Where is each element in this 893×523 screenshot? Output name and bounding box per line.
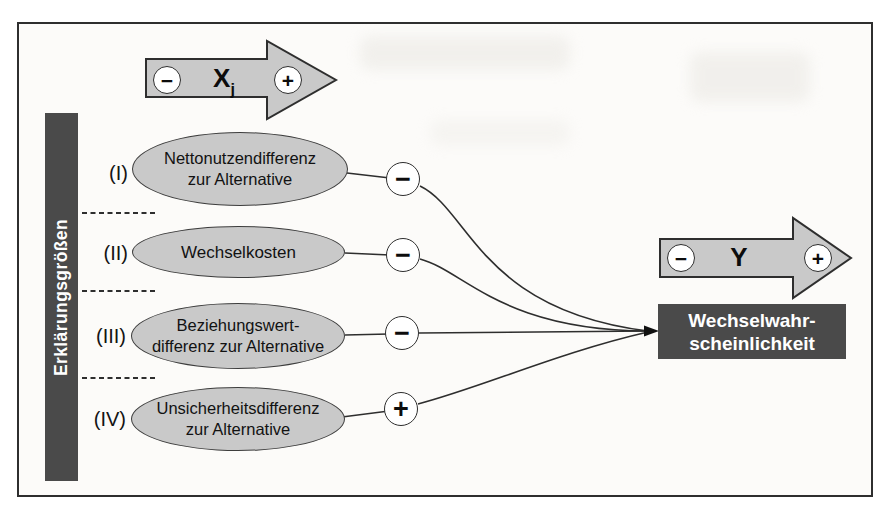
row1-sign-badge: − [386,162,420,196]
ellipse-unsicherheitsdifferenz: Unsicherheitsdifferenz zur Alternative [131,387,345,451]
minus-sign-icon: − [161,70,173,91]
curve-row4-to-outcome [418,332,648,404]
plus-sign-icon: + [393,396,409,423]
minus-sign-icon: − [395,242,411,269]
minus-sign-icon: − [675,248,687,269]
x-axis-label-subscript: j [230,81,234,98]
connector-ellipse1-to-sign [347,173,390,178]
ellipse-wechselkosten: Wechselkosten [132,226,345,278]
plus-sign-icon: + [812,248,824,269]
y-axis-label: Y [704,241,774,273]
ellipse-nettonutzendifferenz: Nettonutzendifferenz zur Alternative [132,132,348,206]
x-axis-plus-badge: + [274,66,302,94]
row2-index-label: (II) [66,241,128,265]
curve-row1-to-outcome [420,186,648,331]
row3-index-label: (III) [64,324,126,348]
y-axis-minus-badge: − [667,244,695,272]
x-axis-label-main: X [213,63,230,93]
row1-index-label: (I) [66,161,128,185]
row4-sign-badge: + [384,392,418,426]
ellipse-beziehungswertdifferenz: Beziehungswert- differenz zur Alternativ… [131,303,345,369]
minus-sign-icon: − [394,320,410,347]
y-axis-plus-badge: + [804,244,832,272]
connector-ellipse3-to-sign [345,334,389,335]
plus-sign-icon: + [282,70,294,91]
row3-sign-badge: − [385,316,419,350]
row4-index-label: (IV) [64,407,126,431]
minus-sign-icon: − [395,166,411,193]
x-axis-minus-badge: − [153,66,181,94]
outcome-arrowhead [644,326,659,337]
x-axis-label: Xj [189,62,259,94]
connector-ellipse4-to-sign [342,411,389,417]
outcome-box-wechselwahrscheinlichkeit: Wechselwahr- scheinlichkeit [658,304,846,359]
scanned-diagram-page: − Xj + − Y + Erklärungsgrößen (I) (II) (… [0,0,893,523]
row2-sign-badge: − [386,238,420,272]
connector-ellipse2-to-sign [345,253,390,255]
line-row3-to-outcome [419,331,648,333]
